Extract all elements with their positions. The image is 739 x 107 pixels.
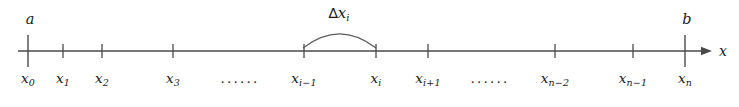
endpoint-label-a: a — [26, 12, 35, 27]
tick-label-x2: x2 — [95, 72, 109, 86]
axis-svg — [0, 0, 739, 107]
endpoint-label-b: b — [682, 12, 691, 27]
ellipsis-left: ······ — [221, 74, 260, 90]
tick-label-x0: x0 — [21, 72, 35, 86]
ellipsis-right: ······ — [471, 74, 510, 90]
axis-name-label: x — [719, 44, 727, 58]
tick-label-x3: x3 — [166, 72, 180, 86]
tick-label-xn-1: xn−1 — [619, 72, 647, 86]
delta-x-label: ∆xi — [328, 6, 349, 21]
tick-label-xn-2: xn−2 — [541, 72, 569, 86]
axis-arrowhead-icon — [701, 47, 712, 55]
delta-arc — [303, 34, 376, 48]
tick-label-xi: xi — [371, 72, 382, 86]
tick-label-xi+1: xi+1 — [415, 72, 440, 86]
number-line-figure: x0x1x2x3xi−1xixi+1xn−2xn−1xn············… — [0, 0, 739, 107]
tick-label-xi-1: xi−1 — [291, 72, 316, 86]
tick-label-xn: xn — [678, 72, 692, 86]
tick-label-x1: x1 — [56, 72, 70, 86]
